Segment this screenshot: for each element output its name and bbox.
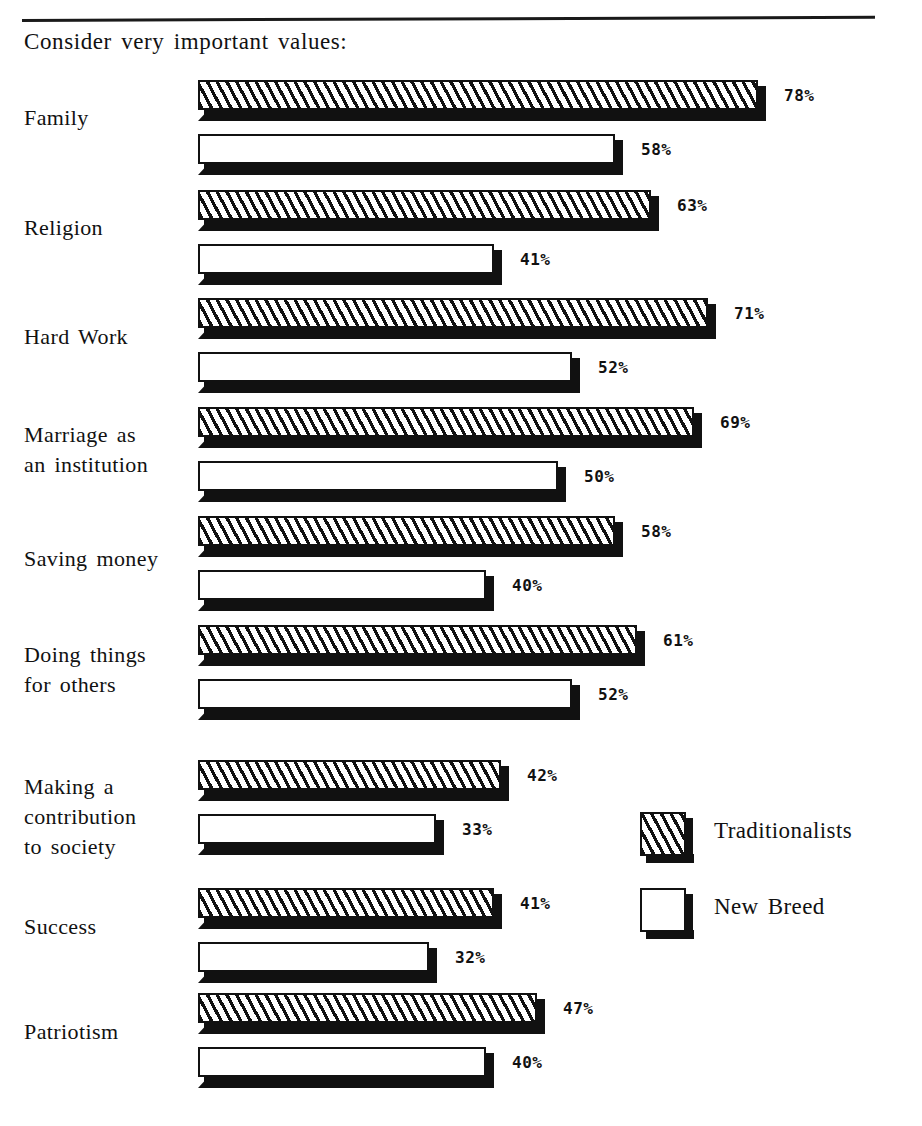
legend-swatch-new-breed [640,888,694,940]
legend-label-new-breed: New Breed [714,894,825,920]
bar-traditionalists[interactable] [198,80,766,119]
category-label: Making a contribution to society [24,772,136,862]
legend-label-traditionalists: Traditionalists [714,818,852,844]
bar-value-label: 58% [641,522,671,541]
bar-value-label: 40% [512,576,542,595]
bar-face [198,298,708,328]
bar-new-breed[interactable] [198,570,494,609]
bar-face [198,625,637,655]
bar-traditionalists[interactable] [198,760,509,799]
bar-value-label: 52% [598,358,628,377]
bar-traditionalists[interactable] [198,407,702,446]
category-label: Religion [24,213,103,243]
bar-face [198,679,572,709]
bar-face [198,1047,486,1077]
category-label: Family [24,103,89,133]
bar-value-label: 50% [584,467,614,486]
bar-face [198,516,615,546]
bar-new-breed[interactable] [198,1047,494,1086]
bar-value-label: 32% [455,948,485,967]
bar-value-label: 47% [563,999,593,1018]
bar-traditionalists[interactable] [198,993,545,1032]
bar-face [198,461,558,491]
legend-swatch-traditionalists [640,812,694,864]
bar-new-breed[interactable] [198,244,502,283]
category-label: Saving money [24,544,158,574]
bar-value-label: 61% [663,631,693,650]
bar-new-breed[interactable] [198,814,444,853]
bar-traditionalists[interactable] [198,516,623,555]
bar-value-label: 58% [641,140,671,159]
bar-face [198,190,651,220]
bar-value-label: 71% [734,304,764,323]
category-label: Marriage as an institution [24,420,148,480]
bar-value-label: 33% [462,820,492,839]
chart-page: Consider very important values: Family78… [0,0,922,1126]
bar-value-label: 69% [720,413,750,432]
bar-face [198,352,572,382]
bar-face [198,407,694,437]
bar-face [198,760,501,790]
bar-face [198,814,436,844]
bar-value-label: 52% [598,685,628,704]
bar-traditionalists[interactable] [198,888,502,927]
bar-value-label: 41% [520,250,550,269]
bar-new-breed[interactable] [198,461,566,500]
bar-face [198,80,758,110]
bar-face [198,244,494,274]
bar-face [198,942,429,972]
category-label: Patriotism [24,1017,118,1047]
bar-value-label: 78% [784,86,814,105]
category-label: Doing things for others [24,640,146,700]
bar-new-breed[interactable] [198,679,580,718]
category-label: Success [24,912,96,942]
plot-area: Family78%58%Religion63%41%Hard Work71%52… [0,0,922,1126]
bar-traditionalists[interactable] [198,625,645,664]
bar-new-breed[interactable] [198,352,580,391]
bar-face [198,134,615,164]
bar-value-label: 63% [677,196,707,215]
bar-face [198,570,486,600]
bar-value-label: 41% [520,894,550,913]
bar-value-label: 40% [512,1053,542,1072]
category-label: Hard Work [24,322,128,352]
bar-traditionalists[interactable] [198,190,659,229]
bar-face [198,993,537,1023]
bar-traditionalists[interactable] [198,298,716,337]
bar-value-label: 42% [527,766,557,785]
bar-new-breed[interactable] [198,942,437,981]
bar-new-breed[interactable] [198,134,623,173]
bar-face [198,888,494,918]
